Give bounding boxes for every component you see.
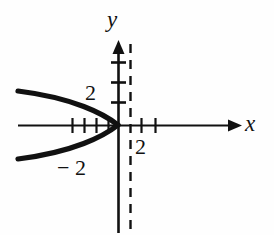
- x-axis-arrowhead: [228, 120, 242, 132]
- y-axis-arrowhead: [113, 40, 125, 54]
- y-axis-label: y: [107, 8, 117, 31]
- x-axis-label: x: [245, 112, 255, 135]
- y-axis-tick-label-2: 2: [85, 82, 96, 104]
- parabola-figure: y x 2 2 − 2: [0, 0, 274, 235]
- coordinate-plot: [0, 0, 274, 235]
- parabola-lower-branch: [18, 125, 118, 159]
- tick-label-negative-2: − 2: [57, 157, 86, 179]
- y-axis: [113, 40, 125, 233]
- x-axis-tick-label-2: 2: [135, 136, 146, 158]
- parabola-upper-branch: [18, 91, 118, 125]
